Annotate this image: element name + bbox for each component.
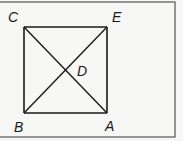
label-A: A [104,118,114,134]
label-D: D [77,63,87,79]
figure-frame [0,2,175,137]
label-E: E [112,9,122,25]
label-C: C [8,9,19,25]
geometry-diagram: C E D B A [0,0,183,141]
label-B: B [14,119,23,135]
